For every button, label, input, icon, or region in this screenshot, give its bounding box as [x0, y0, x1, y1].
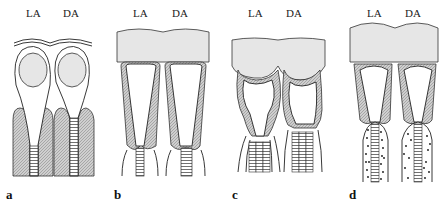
diagram-canvas: LA DA a LA DA b — [0, 0, 443, 206]
figure: LA DA a LA DA b — [0, 0, 443, 206]
panel-c-label-da: DA — [286, 7, 302, 19]
panel-c: LA DA c — [232, 7, 325, 202]
panel-b-label-da: DA — [172, 7, 188, 19]
panel-b-label-la: LA — [133, 7, 148, 19]
panel-b-letter: b — [114, 187, 121, 202]
panel-b: LA DA b — [114, 7, 209, 202]
panel-a-label-da: DA — [63, 7, 79, 19]
panel-d-label-la: LA — [367, 7, 382, 19]
panel-c-label-la: LA — [248, 7, 263, 19]
panel-a-letter: a — [6, 187, 13, 202]
panel-a: LA DA a — [6, 7, 94, 202]
panel-a-label-la: LA — [26, 7, 41, 19]
panel-c-letter: c — [232, 187, 238, 202]
panel-d: LA DA d — [349, 7, 438, 202]
panel-d-label-da: DA — [405, 7, 421, 19]
panel-d-letter: d — [349, 187, 357, 202]
